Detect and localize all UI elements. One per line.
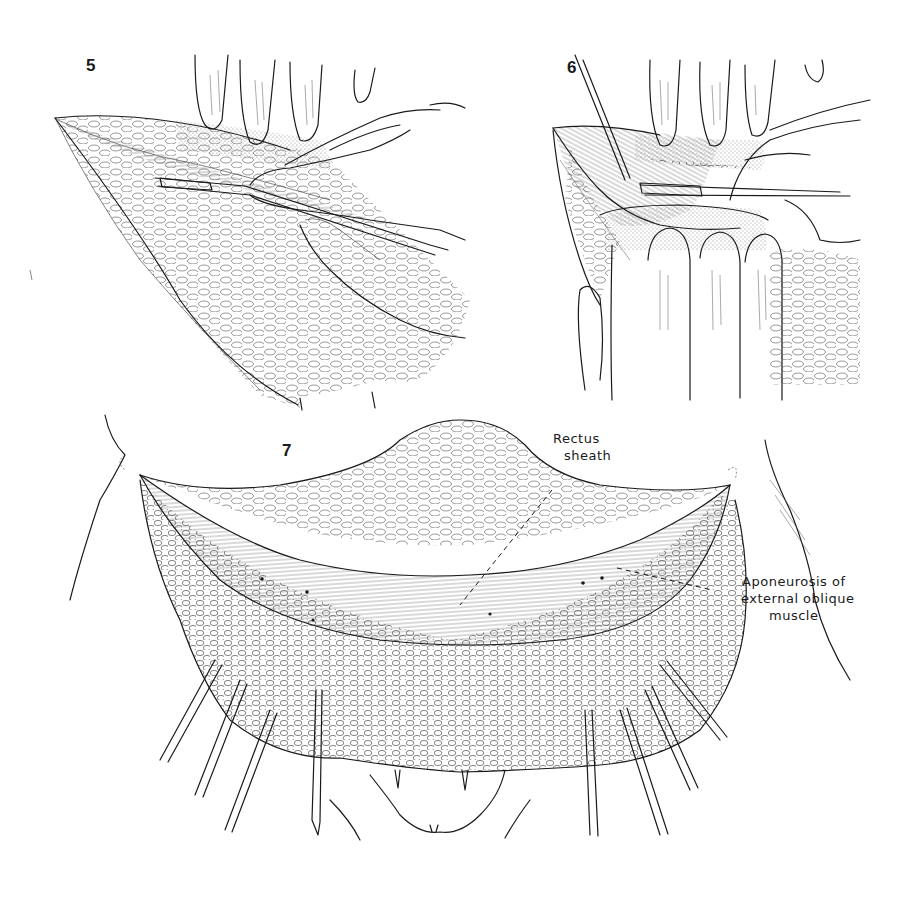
rectus-sheath-label-line2: sheath <box>553 447 611 464</box>
panel-7-drawing <box>70 415 850 840</box>
panel-5-drawing <box>30 55 470 410</box>
panel-number-7: 7 <box>282 441 291 461</box>
aponeurosis-label: Aponeurosis of external oblique muscle <box>733 573 855 624</box>
aponeurosis-label-line3: muscle <box>733 607 855 624</box>
rectus-sheath-label-line1: Rectus <box>553 430 611 447</box>
panel-number-6: 6 <box>567 58 576 78</box>
aponeurosis-label-line1: Aponeurosis of <box>733 573 855 590</box>
surgical-illustration <box>0 0 919 902</box>
rectus-sheath-label: Rectus sheath <box>553 430 611 464</box>
aponeurosis-label-line2: external oblique <box>733 590 855 607</box>
panel-number-5: 5 <box>86 56 95 76</box>
panel-6-drawing <box>553 55 870 400</box>
